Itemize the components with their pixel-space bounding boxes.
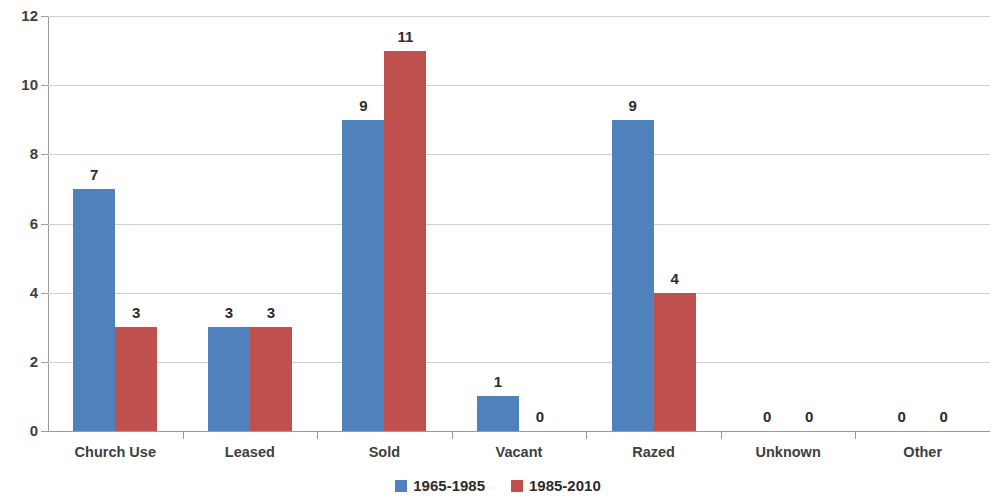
- data-label: 4: [654, 271, 696, 286]
- data-label: 0: [746, 409, 788, 424]
- bar-1965-1985-Razed[interactable]: [612, 120, 654, 431]
- x-axis-category-label: Other: [855, 445, 990, 460]
- bar-1985-2010-Leased[interactable]: [250, 327, 292, 431]
- y-axis-tick-label: 10: [4, 77, 38, 92]
- gridline: [48, 154, 990, 155]
- y-axis-tick-label: 0: [4, 423, 38, 438]
- data-label: 9: [612, 98, 654, 113]
- bar-1965-1985-Church Use[interactable]: [73, 189, 115, 431]
- x-axis-category-label: Church Use: [48, 445, 183, 460]
- x-axis-separator-tick: [183, 431, 184, 439]
- data-label: 3: [250, 305, 292, 320]
- gridline: [48, 85, 990, 86]
- y-axis-tick-label: 4: [4, 285, 38, 300]
- y-axis-tick: [41, 16, 48, 17]
- y-axis-tick-label: 6: [4, 216, 38, 231]
- x-axis-category-label: Sold: [317, 445, 452, 460]
- x-axis-separator-tick: [721, 431, 722, 439]
- x-axis-separator-tick: [855, 431, 856, 439]
- bar-1965-1985-Sold[interactable]: [342, 120, 384, 431]
- data-label: 1: [477, 374, 519, 389]
- data-label: 3: [208, 305, 250, 320]
- bar-1965-1985-Leased[interactable]: [208, 327, 250, 431]
- plot-area: [48, 16, 990, 431]
- y-axis-tick-label: 2: [4, 354, 38, 369]
- y-axis-tick-label: 12: [4, 8, 38, 23]
- bar-1965-1985-Vacant[interactable]: [477, 396, 519, 431]
- gridline: [48, 362, 990, 363]
- y-axis-tick: [41, 431, 48, 432]
- data-label: 3: [115, 305, 157, 320]
- data-label: 9: [342, 98, 384, 113]
- x-axis-separator-tick: [586, 431, 587, 439]
- data-label: 11: [384, 29, 426, 44]
- y-axis-tick: [41, 362, 48, 363]
- chart-legend: 1965-19851985-2010: [0, 478, 996, 493]
- y-axis-tick-label: 8: [4, 146, 38, 161]
- gridline: [48, 293, 990, 294]
- y-axis-tick: [41, 293, 48, 294]
- legend-label: 1965-1985: [413, 478, 485, 493]
- x-axis-category-label: Vacant: [452, 445, 587, 460]
- data-label: 0: [519, 409, 561, 424]
- legend-swatch-1985-2010: [511, 480, 523, 492]
- y-axis-tick: [41, 224, 48, 225]
- bar-1985-2010-Sold[interactable]: [384, 51, 426, 431]
- y-axis-tick: [41, 154, 48, 155]
- legend-item-1985-2010[interactable]: 1985-2010: [511, 478, 601, 493]
- legend-item-1965-1985[interactable]: 1965-1985: [395, 478, 485, 493]
- data-label: 7: [73, 167, 115, 182]
- y-axis-tick: [41, 85, 48, 86]
- x-axis-separator-tick: [452, 431, 453, 439]
- bar-1985-2010-Church Use[interactable]: [115, 327, 157, 431]
- bar-chart: 024681012 733391110940000 Church UseLeas…: [0, 0, 996, 501]
- gridline: [48, 16, 990, 17]
- x-axis-category-label: Razed: [586, 445, 721, 460]
- x-axis-baseline: [48, 431, 990, 432]
- gridline: [48, 224, 990, 225]
- x-axis-category-label: Leased: [183, 445, 318, 460]
- x-axis-category-label: Unknown: [721, 445, 856, 460]
- bar-1985-2010-Razed[interactable]: [654, 293, 696, 431]
- x-axis-separator-tick: [317, 431, 318, 439]
- legend-swatch-1965-1985: [395, 480, 407, 492]
- legend-label: 1985-2010: [529, 478, 601, 493]
- data-label: 0: [788, 409, 830, 424]
- data-label: 0: [881, 409, 923, 424]
- data-label: 0: [923, 409, 965, 424]
